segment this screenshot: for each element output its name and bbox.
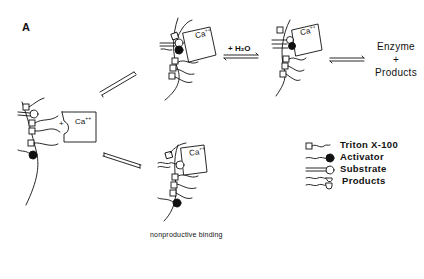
enzyme-plus-products: Enzyme + Products <box>368 40 424 79</box>
legend-item-substrate: Substrate <box>340 163 398 175</box>
legend: Triton X-100 Activator Substrate Product… <box>340 139 398 187</box>
ca-charge: ++ <box>204 26 211 33</box>
hydrolysis-arrow <box>224 53 258 60</box>
legend-icons <box>306 143 334 189</box>
ca-charge: ++ <box>198 145 205 152</box>
release-arrow <box>330 56 364 63</box>
equilibrium-arrow-down <box>103 153 141 168</box>
ca-charge: ++ <box>309 23 316 30</box>
nonproductive-caption: nonproductive binding <box>150 231 223 238</box>
legend-item-activator: Activator <box>340 151 398 163</box>
ca-text: Ca <box>75 117 85 126</box>
ca-charge: ++ <box>85 115 91 121</box>
products-text: Products <box>368 66 424 79</box>
legend-item-products: Products <box>342 175 398 187</box>
enzyme-text: Enzyme <box>368 40 424 53</box>
equilibrium-arrow-up <box>100 72 136 97</box>
plus-text: + <box>368 53 424 66</box>
water-label: + H₂O <box>228 44 250 53</box>
calcium-label-nonproductive: Ca++ <box>188 145 205 158</box>
legend-item-triton: Triton X-100 <box>340 139 398 151</box>
calcium-label-free: Ca++ <box>75 115 91 126</box>
plus-sign: + <box>59 119 64 128</box>
